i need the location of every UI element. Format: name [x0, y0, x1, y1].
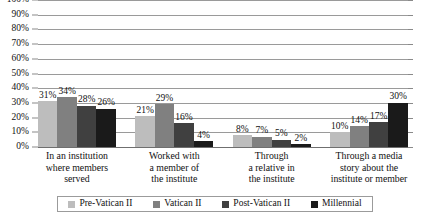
y-axis-tick-label: 40%	[12, 83, 29, 93]
plot-area: 31%34%28%26%21%29%16%4%8%7%5%2%10%14%17%…	[38, 0, 408, 148]
bar-group: 31%34%28%26%	[38, 0, 116, 147]
gridline-end-tick	[408, 59, 413, 60]
bar-value-label: 7%	[256, 126, 269, 136]
bar-slot: 2%	[291, 0, 310, 147]
bar-value-label: 21%	[136, 106, 153, 116]
category-label-line: story about the	[330, 162, 408, 174]
gridline-end-tick	[408, 15, 413, 16]
category-label-line: the institute	[135, 173, 213, 185]
y-axis-tick-label: 20%	[12, 113, 29, 123]
bar-slot: 4%	[194, 0, 213, 147]
category-label-line: In an institution	[38, 150, 116, 162]
category-label-line: where members	[38, 162, 116, 174]
bar-value-label: 30%	[390, 92, 407, 102]
gridline-end-tick	[408, 132, 413, 133]
category-label-line: the institute	[233, 173, 311, 185]
category-label-line: a relative in	[233, 162, 311, 174]
bar-slot: 34%	[57, 0, 76, 147]
gridline-end-tick	[408, 118, 413, 119]
bar-value-label: 31%	[39, 91, 56, 101]
bar[interactable]: 21%	[135, 116, 154, 147]
bar-slot: 28%	[77, 0, 96, 147]
category-label-line: Through	[233, 150, 311, 162]
y-axis-tick-label: 80%	[12, 25, 29, 35]
category-label-line: Through a media	[330, 150, 408, 162]
bar-slot: 16%	[174, 0, 193, 147]
bar[interactable]: 34%	[57, 97, 76, 147]
bar[interactable]: 31%	[38, 101, 57, 147]
category-label-line: served	[38, 173, 116, 185]
bar-slot: 17%	[369, 0, 388, 147]
bar[interactable]: 7%	[252, 137, 271, 147]
bar-value-label: 2%	[295, 134, 308, 144]
bar-slot: 26%	[96, 0, 115, 147]
y-axis-tick-label: 70%	[12, 39, 29, 49]
y-axis-tick-label: 90%	[12, 10, 29, 20]
category-label: Througha relative inthe institute	[233, 150, 311, 185]
bar-value-label: 34%	[58, 87, 75, 97]
axis-baseline	[38, 147, 408, 148]
legend-swatch-icon	[311, 201, 318, 208]
bar-value-label: 10%	[331, 122, 348, 132]
y-axis-tick-label: 10%	[12, 128, 29, 138]
category-label: Worked witha member ofthe institute	[135, 150, 213, 185]
bar-value-label: 5%	[275, 129, 288, 139]
bar-slot: 10%	[330, 0, 349, 147]
bar-slot: 30%	[388, 0, 407, 147]
bar[interactable]: 28%	[77, 106, 96, 147]
y-axis-tick-label: 30%	[12, 98, 29, 108]
bar-group: 21%29%16%4%	[135, 0, 213, 147]
y-axis-tick-label: 50%	[12, 69, 29, 79]
y-axis-tick-label: 60%	[12, 54, 29, 64]
legend-item[interactable]: Post-Vatican II	[222, 199, 290, 209]
bar-slot: 14%	[350, 0, 369, 147]
legend-label: Pre-Vatican II	[79, 199, 132, 209]
y-axis-tick-label: 0%	[16, 142, 29, 152]
bar-value-label: 16%	[175, 113, 192, 123]
category-label: In an institutionwhere membersserved	[38, 150, 116, 185]
bar[interactable]: 2%	[291, 144, 310, 147]
legend-item[interactable]: Pre-Vatican II	[68, 199, 132, 209]
bar[interactable]: 10%	[330, 132, 349, 147]
bar[interactable]: 30%	[388, 103, 407, 147]
bar-group: 10%14%17%30%	[330, 0, 408, 147]
bar-slot: 7%	[252, 0, 271, 147]
bar[interactable]: 17%	[369, 122, 388, 147]
category-label-line: Worked with	[135, 150, 213, 162]
gridline-end-tick	[408, 103, 413, 104]
legend-swatch-icon	[222, 201, 229, 208]
category-axis-labels: In an institutionwhere membersservedWork…	[38, 150, 408, 185]
bar[interactable]: 26%	[96, 109, 115, 147]
y-axis: 0%10%20%30%40%50%60%70%80%90%100%	[0, 0, 38, 148]
gridline-end-tick	[408, 44, 413, 45]
category-label: Through a mediastory about theinstitute …	[330, 150, 408, 185]
legend-label: Post-Vatican II	[233, 199, 290, 209]
bar-slot: 21%	[135, 0, 154, 147]
bar-value-label: 4%	[197, 131, 210, 141]
bar[interactable]: 8%	[233, 135, 252, 147]
legend-item[interactable]: Vatican II	[153, 199, 201, 209]
legend-item[interactable]: Millennial	[311, 199, 362, 209]
bar[interactable]: 4%	[194, 141, 213, 147]
legend-label: Vatican II	[164, 199, 201, 209]
category-label-line: institute or member	[330, 173, 408, 185]
bar-value-label: 17%	[370, 112, 387, 122]
gridline-end-tick	[408, 88, 413, 89]
legend-swatch-icon	[153, 201, 160, 208]
bar-chart: 0%10%20%30%40%50%60%70%80%90%100% 31%34%…	[0, 0, 424, 224]
bar-value-label: 26%	[97, 98, 114, 108]
gridline-end-tick	[408, 147, 413, 148]
bar[interactable]: 5%	[272, 140, 291, 147]
legend-swatch-icon	[68, 201, 75, 208]
gridline-end-tick	[408, 0, 413, 1]
chart-legend: Pre-Vatican IIVatican IIPost-Vatican IIM…	[57, 196, 373, 212]
bar-value-label: 28%	[78, 95, 95, 105]
bar[interactable]: 16%	[174, 123, 193, 147]
legend-label: Millennial	[322, 199, 362, 209]
bar[interactable]: 14%	[350, 126, 369, 147]
category-label-line: a member of	[135, 162, 213, 174]
gridline-end-tick	[408, 29, 413, 30]
bar-slot: 8%	[233, 0, 252, 147]
bar[interactable]: 29%	[155, 104, 174, 147]
bar-group: 8%7%5%2%	[233, 0, 311, 147]
